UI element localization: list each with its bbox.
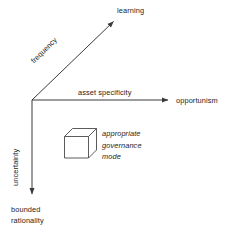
- axis-label-asset-specificity: asset specificity: [78, 88, 131, 98]
- cube-caption: appropriate governance mode: [102, 128, 142, 163]
- bounded-rationality-line-1: bounded: [11, 204, 44, 215]
- diagram-canvas: learning frequency asset specificity opp…: [0, 0, 236, 232]
- cube-caption-line-3: mode: [102, 151, 142, 163]
- axis-label-uncertainty: uncertainty: [11, 149, 21, 186]
- bounded-rationality-line-2: rationality: [11, 215, 44, 226]
- governance-cube-icon: [65, 129, 97, 159]
- axis-endpoint-label-bounded-rationality: bounded rationality: [11, 204, 44, 226]
- cube-caption-line-2: governance: [102, 140, 142, 152]
- axis-endpoint-label-opportunism: opportunism: [176, 96, 218, 106]
- cube-caption-line-1: appropriate: [102, 128, 142, 140]
- diagram-vector-layer: [0, 0, 236, 232]
- axis-endpoint-label-learning: learning: [117, 6, 144, 16]
